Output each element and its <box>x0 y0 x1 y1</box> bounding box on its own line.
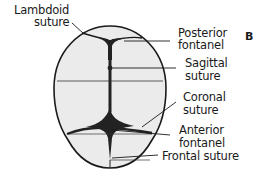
coronal-suture-label-line2: suture <box>183 104 218 116</box>
posterior-fontanel-label-line2: fontanel <box>178 39 224 51</box>
coronal-suture-label-line1: Coronal <box>183 91 226 103</box>
anterior-fontanel-label-line1: Anterior <box>179 124 224 136</box>
frontal-suture-label: Frontal suture <box>162 150 239 162</box>
lambdoid-suture-label-line2: suture <box>34 16 69 28</box>
sagittal-suture-label-line1: Sagittal <box>185 57 228 69</box>
panel-label: B <box>245 30 253 43</box>
sagittal-suture-label-line2: suture <box>185 70 220 82</box>
anterior-fontanel-label-line2: fontanel <box>179 137 225 149</box>
